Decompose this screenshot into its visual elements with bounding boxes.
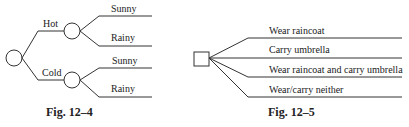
branch-label-carry-umbrella: Carry umbrella bbox=[269, 45, 330, 55]
branch-label-cold: Cold bbox=[42, 68, 61, 78]
root-chance-node bbox=[6, 50, 22, 66]
branch-label-both: Wear raincoat and carry umbrella bbox=[269, 65, 403, 75]
branch-label-wear-raincoat: Wear raincoat bbox=[269, 26, 325, 36]
decision-node bbox=[194, 52, 209, 66]
cold-chance-node bbox=[64, 72, 80, 88]
outcome-label-rainy-cold: Rainy bbox=[111, 84, 135, 94]
outcome-label-sunny-cold: Sunny bbox=[112, 56, 138, 66]
figure-caption-12-5: Fig. 12–5 bbox=[268, 106, 315, 118]
figure-caption-12-4: Fig. 12–4 bbox=[46, 106, 93, 118]
hot-chance-node bbox=[64, 23, 80, 39]
outcome-label-sunny-hot: Sunny bbox=[111, 4, 137, 14]
branch-label-hot: Hot bbox=[43, 19, 58, 29]
outcome-label-rainy-hot: Rainy bbox=[111, 33, 135, 43]
branch-label-neither: Wear/carry neither bbox=[269, 85, 343, 95]
